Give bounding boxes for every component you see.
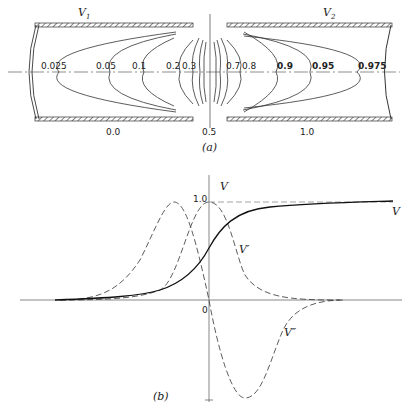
eq-label-1: 0.05 — [96, 61, 116, 71]
eq-label-5: 0.7 — [226, 61, 240, 71]
caption-b: (b) — [153, 390, 169, 403]
right-electrode-top-wall — [227, 23, 392, 27]
eq-label-6: 0.8 — [242, 61, 257, 71]
panel-b: V 1.0 0 V V′ V″ (b) — [20, 175, 402, 403]
eq-label-3: 0.2 — [166, 61, 180, 71]
origin-label: 0 — [202, 305, 208, 315]
eq-label-0: 0.025 — [41, 61, 67, 71]
curve-V-label: V — [392, 205, 401, 218]
potential-gap: 0.5 — [202, 127, 216, 137]
potential-right: 1.0 — [300, 127, 315, 137]
eq-label-9: 0.975 — [358, 61, 386, 71]
curve-Vprime — [60, 202, 340, 300]
panel-a: V1 V2 0.025 0.05 0.1 0.2 0.3 0.7 0.8 0.9… — [8, 6, 400, 154]
eq-label-4: 0.3 — [182, 61, 196, 71]
caption-a: (a) — [202, 141, 217, 154]
label-V1: V1 — [78, 6, 90, 21]
eq-label-7: 0.9 — [277, 61, 293, 71]
figure: V1 V2 0.025 0.05 0.1 0.2 0.3 0.7 0.8 0.9… — [0, 0, 409, 410]
left-electrode-bottom-wall — [35, 117, 193, 121]
label-V2: V2 — [323, 6, 336, 21]
curve-Vdoubleprime-label: V″ — [284, 326, 297, 339]
left-electrode-top-wall — [35, 23, 193, 27]
curve-Vprime-label: V′ — [239, 243, 250, 256]
eq-label-8: 0.95 — [312, 61, 334, 71]
eq-label-2: 0.1 — [132, 61, 146, 71]
y-axis-label: V — [220, 180, 229, 193]
y-tick-1: 1.0 — [193, 194, 208, 204]
potential-left: 0.0 — [106, 127, 121, 137]
right-electrode-bottom-wall — [227, 117, 392, 121]
